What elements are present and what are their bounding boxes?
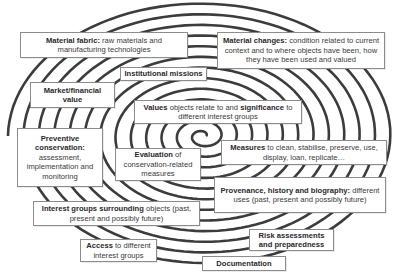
evaluation-box: Evaluation of conservation-related measu… xyxy=(115,148,201,181)
box-heading: Material fabric: xyxy=(46,36,100,45)
box-heading: Provenance, history and biography: xyxy=(221,186,351,195)
box-heading: Documentation xyxy=(216,259,271,268)
box-heading-2: significance xyxy=(240,103,284,112)
box-heading: Access xyxy=(86,241,113,250)
interest-groups-box: Interest groups surrounding objects (pas… xyxy=(33,201,200,226)
box-heading: Material changes: xyxy=(223,36,287,45)
box-heading: Measures xyxy=(230,143,265,152)
institutional-missions-box: Institutional missions xyxy=(120,67,207,81)
box-heading: Values xyxy=(143,103,167,112)
material-changes-box: Material changes: condition related to c… xyxy=(217,32,385,69)
risk-assessments-box: Risk assessments and preparedness xyxy=(249,229,334,251)
market-financial-value-box: Market/financial value xyxy=(30,82,115,108)
box-heading: Interest groups surrounding xyxy=(42,204,144,213)
box-heading: Evaluation xyxy=(135,150,173,159)
material-fabric-box: Material fabric: raw materials and manuf… xyxy=(20,32,188,58)
documentation-box: Documentation xyxy=(202,256,286,271)
box-text: objects relate to and xyxy=(168,103,241,112)
box-heading: Market/financial value xyxy=(44,86,101,104)
values-significance-box: Values objects relate to and significanc… xyxy=(134,100,302,124)
box-text: assessment, implementation and monitorin… xyxy=(27,153,93,181)
provenance-box: Provenance, history and biography: diffe… xyxy=(214,177,386,213)
box-heading: Preventive conservation: xyxy=(35,134,85,152)
preventive-conservation-box: Preventive conservation: assessment, imp… xyxy=(17,128,103,187)
box-text: to clean, stabilise, preserve, use, disp… xyxy=(263,143,378,161)
box-heading: Institutional missions xyxy=(124,69,202,78)
access-box: Access to different interest groups xyxy=(80,239,157,262)
box-heading: Risk assessments and preparedness xyxy=(259,231,325,249)
measures-box: Measures to clean, stabilise, preserve, … xyxy=(221,140,387,165)
